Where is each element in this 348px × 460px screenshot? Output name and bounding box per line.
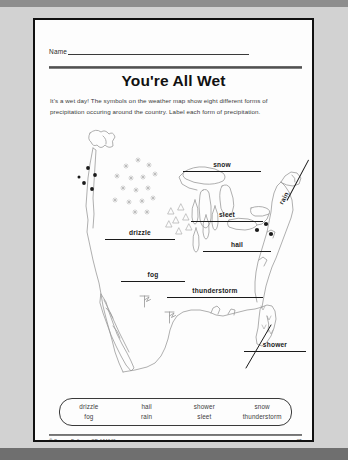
word-bank-word: rain <box>118 412 176 422</box>
answer-label-snow[interactable]: snow <box>183 162 261 172</box>
symbol-group-snow <box>113 158 157 214</box>
word-bank-column: hail rain <box>118 402 176 423</box>
answer-label-drizzle[interactable]: drizzle <box>105 230 175 240</box>
page-number: 85 <box>297 439 302 442</box>
symbol-group-rain <box>255 222 273 236</box>
word-bank-word: sleet <box>176 412 234 422</box>
answer-label-thunderstorm[interactable]: thunderstorm <box>167 288 263 298</box>
copyright-text: © Carson-Dellosa · CD-104640 <box>49 439 116 442</box>
page-title: You're All Wet <box>35 72 312 90</box>
answer-label-fog[interactable]: fog <box>121 272 185 282</box>
map-outline-baja <box>100 294 134 371</box>
map-outline-northwest <box>89 130 115 147</box>
word-bank-word: fog <box>60 412 118 422</box>
symbol-group-thunderstorm <box>140 296 176 323</box>
symbol-group-shower <box>261 306 273 334</box>
directions-text: It's a wet day! The symbols on the weath… <box>50 96 300 118</box>
map-outline-west-coast <box>86 148 123 372</box>
name-write-line[interactable] <box>68 54 249 55</box>
weather-map: snow sleet drizzle hail rain fog thunder… <box>43 120 308 390</box>
answer-label-sleet[interactable]: sleet <box>191 212 263 222</box>
word-bank-word: snow <box>233 402 291 412</box>
word-bank-column: shower sleet <box>176 402 234 423</box>
word-bank-column: snow thunderstorm <box>233 402 291 423</box>
answer-label-shower[interactable]: shower <box>244 342 306 352</box>
word-bank-word: shower <box>176 402 234 412</box>
word-bank-column: drizzle fog <box>60 402 118 423</box>
word-bank-word: drizzle <box>60 402 118 412</box>
footer: © Carson-Dellosa · CD-104640 85 <box>49 439 302 442</box>
map-outline-gulf-coast <box>123 306 262 372</box>
scan-band-top <box>0 0 348 7</box>
name-label: Name <box>49 49 67 57</box>
word-bank: drizzle fog hail rain shower sleet snow … <box>59 398 292 426</box>
worksheet-sheet: Name You're All Wet It's a wet day! The … <box>33 18 314 442</box>
footer-divider <box>49 434 302 436</box>
answer-label-hail[interactable]: hail <box>203 242 271 252</box>
word-bank-word: thunderstorm <box>233 412 291 422</box>
word-bank-word: hail <box>118 402 176 412</box>
title-divider <box>49 66 302 69</box>
scan-band-bottom <box>0 448 348 460</box>
name-field[interactable]: Name <box>49 44 249 56</box>
